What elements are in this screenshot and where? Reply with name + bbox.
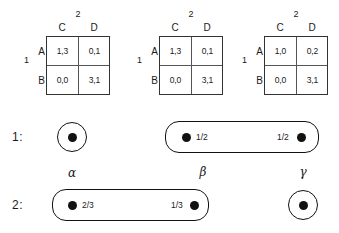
matrix-2-col-header-C: C — [159, 22, 191, 33]
matrix-3-grid: 1,0 0,2 0,0 3,1 — [264, 36, 328, 95]
player-2-singleton-node-name: γ — [293, 166, 313, 179]
matrix-1-row-player-label: 1 — [24, 55, 29, 65]
player-1-infoset-left-probability: 1/2 — [196, 132, 208, 142]
matrix-1-cell-B-C: 0,0 — [47, 66, 78, 95]
matrix-1-cell-A-D: 0,1 — [79, 37, 110, 66]
matrix-2-cell-A-C: 1,3 — [160, 37, 191, 66]
matrix-3-col-header-D: D — [296, 22, 328, 33]
matrix-2-col-header-D: D — [191, 22, 223, 33]
matrix-3-column-player-label: 2 — [264, 9, 328, 19]
player-2-infoset-left-node-dot — [68, 201, 77, 210]
matrix-3-cell-B-D: 3,1 — [297, 66, 328, 95]
player-1-singleton-node-dot — [68, 133, 77, 142]
matrix-2-grid: 1,3 0,1 0,0 3,1 — [159, 36, 223, 95]
matrix-1-col-header-D: D — [78, 22, 110, 33]
matrix-3-row-player-label: 1 — [242, 55, 247, 65]
player-2-infoset-left-name: α — [62, 167, 82, 180]
matrix-1-cell-A-C: 1,3 — [47, 37, 78, 66]
player-1-infoset-right-probability: 1/2 — [277, 132, 289, 142]
matrix-3-row-header-B: B — [253, 75, 263, 86]
game-theory-figure: 2 C D 1 A B 1,3 0,1 0,0 3,1 2 C D 1 A B … — [0, 0, 339, 233]
matrix-1-column-player-label: 2 — [46, 9, 110, 19]
matrix-2-row-header-A: A — [148, 46, 158, 57]
matrix-3-row-header-A: A — [253, 46, 263, 57]
matrix-2-cell-B-C: 0,0 — [160, 66, 191, 95]
matrix-1-cell-B-D: 3,1 — [79, 66, 110, 95]
matrix-2-row-header-B: B — [148, 75, 158, 86]
player-2-infoset-left-probability: 2/3 — [82, 200, 94, 210]
matrix-2-column-player-label: 2 — [159, 9, 223, 19]
matrix-1-grid: 1,3 0,1 0,0 3,1 — [46, 36, 110, 95]
player-2-row-label: 2: — [12, 199, 23, 212]
player-1-row-label: 1: — [12, 131, 23, 144]
matrix-1-col-header-C: C — [46, 22, 78, 33]
player-1-infoset-right-node-dot — [297, 133, 306, 142]
player-2-infoset-right-probability: 1/3 — [171, 200, 183, 210]
player-2-infoset-right-node-dot — [190, 201, 199, 210]
matrix-3-cell-A-C: 1,0 — [265, 37, 296, 66]
player-2-singleton-node-dot — [299, 201, 308, 210]
matrix-2-cell-A-D: 0,1 — [192, 37, 223, 66]
player-2-infoset-right-name: β — [193, 166, 213, 179]
matrix-3-col-header-C: C — [264, 22, 296, 33]
matrix-2-cell-B-D: 3,1 — [192, 66, 223, 95]
matrix-1-row-header-A: A — [35, 46, 45, 57]
matrix-3-cell-B-C: 0,0 — [265, 66, 296, 95]
player-1-infoset-left-node-dot — [182, 133, 191, 142]
matrix-1-row-header-B: B — [35, 75, 45, 86]
matrix-2-row-player-label: 1 — [137, 55, 142, 65]
matrix-3-cell-A-D: 0,2 — [297, 37, 328, 66]
